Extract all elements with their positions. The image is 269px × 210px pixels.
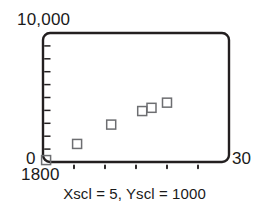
scale-caption: Xscl = 5, Yscl = 1000 bbox=[0, 185, 269, 202]
plot-frame bbox=[43, 33, 229, 162]
scatter-plot-figure: 10,000 0 1800 30 Xscl = 5, Yscl = 1000 bbox=[0, 0, 269, 210]
data-markers bbox=[42, 98, 172, 164]
x-axis-ticks bbox=[74, 166, 198, 169]
y-axis-ticks bbox=[44, 46, 50, 149]
plot-area bbox=[0, 0, 269, 210]
